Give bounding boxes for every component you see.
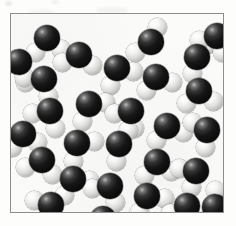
- illustration-frame: [10, 13, 224, 213]
- scan-artifact-top-center-speck: [52, 0, 58, 4]
- oxygen-atom-sphere: [144, 149, 170, 175]
- oxygen-atom-sphere: [138, 29, 164, 55]
- oxygen-atom-sphere: [29, 147, 55, 173]
- oxygen-atom-sphere: [37, 98, 63, 124]
- oxygen-atom-sphere: [174, 193, 200, 213]
- oxygen-atom-sphere: [66, 42, 92, 68]
- molecular-illustration-figure: [0, 0, 236, 226]
- oxygen-atom-sphere: [97, 173, 123, 199]
- oxygen-atom-sphere: [38, 192, 64, 213]
- oxygen-atom-sphere: [34, 25, 60, 51]
- oxygen-atom-sphere: [202, 194, 224, 213]
- oxygen-atom-sphere: [154, 113, 180, 139]
- oxygen-atom-sphere: [60, 166, 86, 192]
- oxygen-atom-sphere: [106, 131, 132, 157]
- oxygen-atom-sphere: [186, 78, 212, 104]
- oxygen-atom-sphere: [64, 130, 90, 156]
- oxygen-atom-sphere: [184, 44, 210, 70]
- oxygen-atom-sphere: [204, 23, 224, 49]
- oxygen-atom-sphere: [194, 117, 220, 143]
- oxygen-atom-sphere: [31, 66, 57, 92]
- oxygen-atom-sphere: [118, 98, 144, 124]
- oxygen-atom-sphere: [10, 121, 36, 147]
- oxygen-atom-sphere: [134, 183, 160, 209]
- oxygen-atom-sphere: [76, 91, 102, 117]
- oxygen-atom-sphere: [183, 158, 209, 184]
- oxygen-atom-sphere: [143, 64, 169, 90]
- oxygen-atom-sphere: [104, 55, 130, 81]
- scan-artifact-top-left-speck: [5, 1, 12, 6]
